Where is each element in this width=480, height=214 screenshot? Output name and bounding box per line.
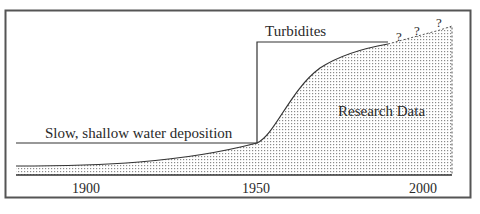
uncertainty-mark-1: ? [396, 29, 402, 44]
research-data-area [16, 26, 452, 175]
slow-deposition-label: Slow, shallow water deposition [45, 125, 233, 141]
research-data-label: Research Data [338, 103, 425, 119]
x-tick-2000: 2000 [409, 181, 437, 196]
uncertainty-mark-3: ? [436, 15, 442, 30]
uncertainty-mark-2: ? [414, 23, 420, 38]
x-tick-1950: 1950 [242, 181, 270, 196]
turbidites-label: Turbidites [265, 23, 326, 39]
x-tick-1900: 1900 [72, 181, 100, 196]
sedimentation-diagram: Turbidites Slow, shallow water depositio… [0, 0, 480, 214]
